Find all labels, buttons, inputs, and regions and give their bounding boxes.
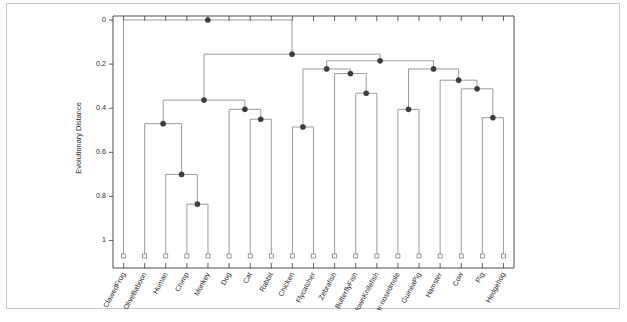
dendrogram-merge-node (205, 17, 210, 22)
leaf-label: Dog (219, 271, 233, 287)
leaf-marker (269, 254, 273, 258)
y-axis: 00.20.40.60.81 (96, 15, 113, 268)
y-axis-title: Evolutionary Distance (74, 102, 83, 173)
dendrogram-merge-node (179, 172, 184, 177)
dendrogram-link (250, 119, 271, 256)
dendrogram-link (482, 118, 503, 256)
leaf-marker (312, 254, 316, 258)
leaf-label: Human (151, 271, 170, 296)
dendrogram-merge-node (300, 124, 305, 129)
dendrogram-link (335, 74, 367, 256)
dendrogram-link (440, 80, 477, 256)
leaf-label: Hamster (423, 270, 444, 299)
leaf-label: Cow (450, 270, 465, 288)
dendrogram-link (229, 109, 261, 256)
leaf-marker (206, 254, 210, 258)
dendrogram-nodes (161, 17, 496, 206)
dendrogram-merge-node (490, 115, 495, 120)
leaf-label: Cat (241, 271, 254, 285)
dendrogram-merge-node (258, 117, 263, 122)
dendrogram-link (398, 109, 419, 256)
dendrogram-link (187, 204, 208, 256)
dendrogram-merge-node (289, 52, 294, 57)
dendrogram-merge-node (161, 121, 166, 126)
leaf-label: Zebrafish (316, 271, 338, 302)
leaf-marker (354, 254, 358, 258)
dendrogram-merge-node (456, 78, 461, 83)
leaf-marker (375, 254, 379, 258)
dendrogram-plot: 00.20.40.60.81 ClawedFrogOliveBaboonHuma… (7, 4, 621, 310)
leaf-marker (333, 254, 337, 258)
y-tick-label: 0.2 (96, 59, 106, 68)
leaf-label: Chimp (173, 271, 191, 294)
dendrogram-link (356, 93, 377, 256)
dendrogram-link (408, 69, 458, 109)
dendrogram-links (124, 20, 504, 256)
dendrogram-link (303, 69, 350, 127)
y-axis-title-text: Evolutionary Distance (74, 102, 83, 173)
y-tick-label: 0.6 (96, 147, 106, 156)
leaf-marker (438, 254, 442, 258)
dendrogram-merge-node (431, 66, 436, 71)
dendrogram-link (461, 89, 493, 256)
leaf-label: Rabbit (257, 271, 275, 294)
dendrogram-link (163, 100, 245, 124)
dendrogram-merge-node (474, 86, 479, 91)
dendrogram-merge-node (195, 202, 200, 207)
leaf-label: Pig (473, 271, 486, 284)
leaf-marker (501, 254, 505, 258)
dendrogram-merge-node (324, 66, 329, 71)
dendrogram-merge-node (364, 91, 369, 96)
dendrogram-link (292, 127, 313, 256)
dendrogram-merge-node (242, 107, 247, 112)
leaf-label: Hedgehog (484, 271, 508, 305)
leaf-marker (122, 254, 126, 258)
leaf-marker (143, 254, 147, 258)
leaf-label: Monkey (192, 270, 212, 297)
leaf-marker (185, 254, 189, 258)
y-tick-label: 0 (102, 15, 106, 24)
dendrogram-merge-node (378, 58, 383, 63)
leaf-labels: ClawedFrogOliveBaboonHumanChimpMonkeyDog… (101, 270, 507, 310)
leaf-marker (417, 254, 421, 258)
leaf-marker (164, 254, 168, 258)
y-tick-label: 1 (102, 235, 106, 244)
leaf-marker (459, 254, 463, 258)
dendrogram-merge-node (201, 97, 206, 102)
dendrogram-merge-node (348, 71, 353, 76)
figure-frame: 00.20.40.60.81 ClawedFrogOliveBaboonHuma… (6, 3, 620, 309)
leaf-label: Flycatcher (294, 270, 318, 304)
leaf-marker (248, 254, 252, 258)
dendrogram-link (145, 124, 182, 256)
dendrogram-merge-node (406, 107, 411, 112)
leaf-marker (227, 254, 231, 258)
leaf-marker (290, 254, 294, 258)
dendrogram-leaf-markers (122, 254, 506, 258)
y-tick-label: 0.8 (96, 191, 106, 200)
leaf-label: Chicken (276, 271, 296, 298)
leaf-marker (396, 254, 400, 258)
leaf-marker (480, 254, 484, 258)
leaf-label: GuineaPig (399, 271, 423, 305)
dendrogram-link (166, 174, 198, 256)
y-tick-label: 0.4 (96, 103, 106, 112)
